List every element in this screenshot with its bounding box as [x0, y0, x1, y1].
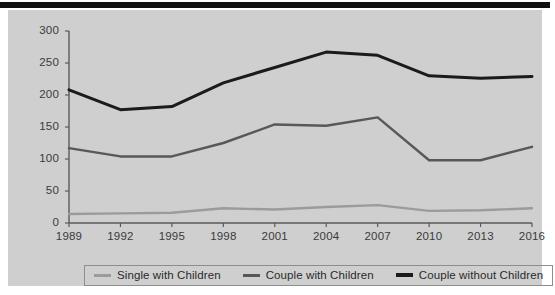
series-line-couple-with-children — [69, 117, 532, 160]
legend-label: Couple with Children — [266, 269, 374, 281]
legend-item[interactable]: Single with Children — [94, 269, 221, 281]
line-chart-plot — [8, 10, 542, 286]
x-tick-label: 2013 — [458, 230, 504, 242]
y-tick-label: 300 — [17, 24, 59, 36]
y-tick-label: 0 — [17, 216, 59, 228]
chart-legend: Single with ChildrenCouple with Children… — [84, 265, 553, 286]
legend-label: Couple without Children — [419, 269, 543, 281]
legend-line-swatch-icon — [94, 274, 111, 277]
legend-item[interactable]: Couple with Children — [243, 269, 374, 281]
legend-label: Single with Children — [117, 269, 221, 281]
x-tick-label: 2007 — [355, 230, 401, 242]
y-tick-label: 100 — [17, 152, 59, 164]
legend-item[interactable]: Couple without Children — [396, 269, 543, 281]
top-black-bar — [0, 2, 550, 8]
y-tick-label: 150 — [17, 120, 59, 132]
x-tick-label: 2010 — [406, 230, 452, 242]
x-tick-label: 2001 — [252, 230, 298, 242]
y-tick-label: 50 — [17, 184, 59, 196]
x-tick-label: 1992 — [97, 230, 143, 242]
x-tick-label: 1995 — [149, 230, 195, 242]
x-tick-label: 2004 — [303, 230, 349, 242]
x-tick-label: 2016 — [509, 230, 555, 242]
series-line-single-with-children — [69, 205, 532, 214]
x-tick-label: 1998 — [200, 230, 246, 242]
legend-line-swatch-icon — [243, 274, 260, 277]
y-tick-label: 200 — [17, 88, 59, 100]
y-tick-label: 250 — [17, 56, 59, 68]
legend-line-swatch-icon — [396, 273, 413, 277]
chart-panel: 050100150200250300 198919921995199820012… — [8, 10, 542, 286]
x-tick-label: 1989 — [46, 230, 92, 242]
series-line-couple-without-children — [69, 52, 532, 110]
